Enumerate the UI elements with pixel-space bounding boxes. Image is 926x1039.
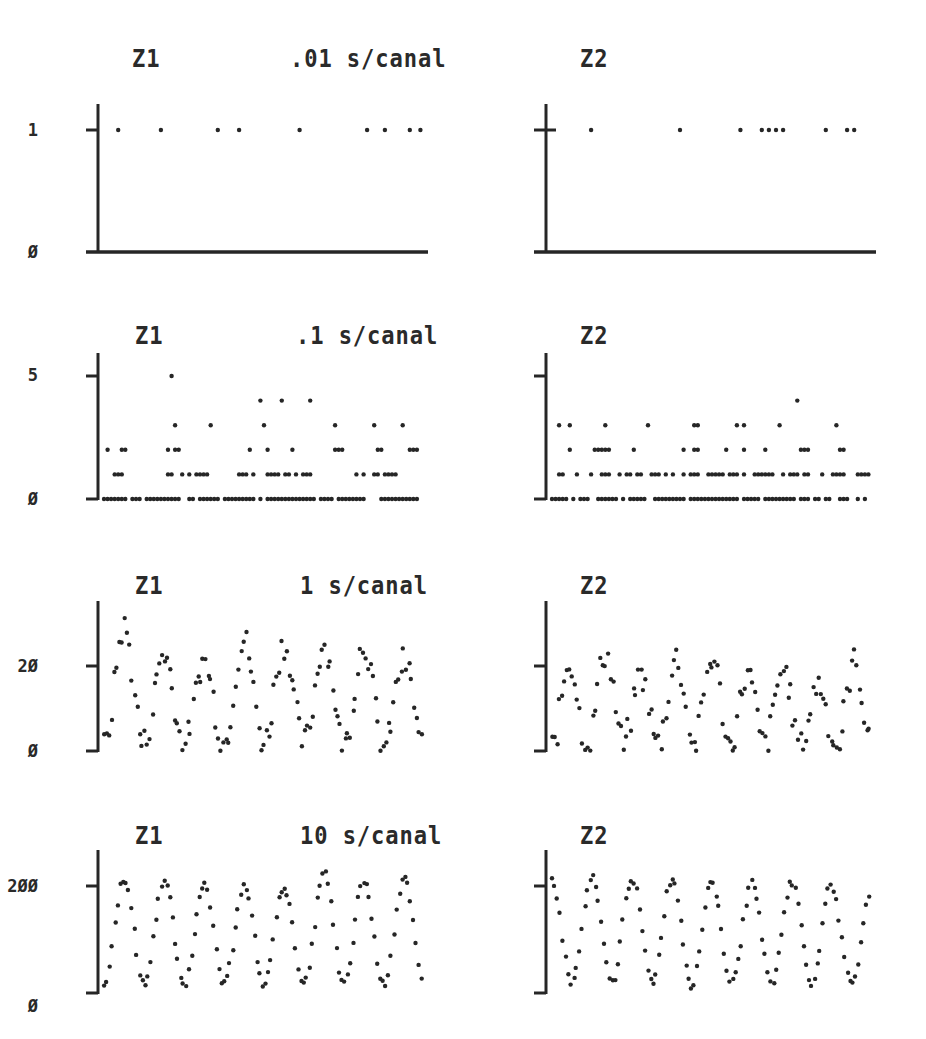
data-point [159, 128, 163, 132]
data-point [308, 725, 312, 729]
data-point [308, 472, 312, 476]
data-point [790, 723, 794, 727]
data-point [628, 472, 632, 476]
data-point [191, 497, 195, 501]
data-point [165, 656, 169, 660]
data-point [763, 448, 767, 452]
data-point [179, 976, 183, 980]
data-point [369, 917, 373, 921]
data-point [806, 497, 810, 501]
data-point [409, 677, 413, 681]
data-point [613, 978, 617, 982]
data-point [696, 714, 700, 718]
data-point [197, 674, 201, 678]
data-point [277, 895, 281, 899]
data-point [766, 749, 770, 753]
data-point [216, 497, 220, 501]
data-point [710, 881, 714, 885]
data-point [151, 712, 155, 716]
data-point [595, 899, 599, 903]
data-point [393, 472, 397, 476]
data-point [331, 688, 335, 692]
data-point [157, 661, 161, 665]
data-point [735, 472, 739, 476]
data-point [361, 651, 365, 655]
data-point [257, 971, 261, 975]
data-point [685, 963, 689, 967]
data-point [265, 728, 269, 732]
data-point [353, 917, 357, 921]
data-point [757, 910, 761, 914]
data-point [811, 685, 815, 689]
data-point [817, 497, 821, 501]
data-point [681, 942, 685, 946]
data-point [413, 941, 417, 945]
data-point [177, 497, 181, 501]
data-point [358, 884, 362, 888]
data-point [218, 749, 222, 753]
data-point [727, 979, 731, 983]
data-point [383, 984, 387, 988]
data-point [588, 748, 592, 752]
data-point [369, 662, 373, 666]
data-point [138, 973, 142, 977]
data-point [768, 714, 772, 718]
data-point [313, 683, 317, 687]
data-point [699, 700, 703, 704]
data-point [796, 902, 800, 906]
data-point [573, 682, 577, 686]
data-point [568, 423, 572, 427]
data-point [589, 472, 593, 476]
data-point [777, 423, 781, 427]
data-point [342, 979, 346, 983]
data-point [192, 697, 196, 701]
data-point [705, 670, 709, 674]
data-point [799, 731, 803, 735]
data-point [750, 878, 754, 882]
data-point [722, 952, 726, 956]
data-point [674, 648, 678, 652]
data-point [864, 903, 868, 907]
data-point [254, 705, 258, 709]
data-point [646, 423, 650, 427]
data-point [742, 472, 746, 476]
data-point [642, 497, 646, 501]
data-point [647, 712, 651, 716]
data-point [817, 676, 821, 680]
data-point [142, 729, 146, 733]
data-point [333, 708, 337, 712]
data-point [187, 472, 191, 476]
data-point [137, 497, 141, 501]
data-point [672, 658, 676, 662]
data-point [163, 659, 167, 663]
data-point [136, 705, 140, 709]
data-point [255, 960, 259, 964]
data-point [316, 895, 320, 899]
data-point [175, 957, 179, 961]
data-point [320, 648, 324, 652]
data-point [239, 893, 243, 897]
data-point [358, 647, 362, 651]
data-point [750, 680, 754, 684]
data-point [133, 693, 137, 697]
data-point [304, 975, 308, 979]
data-point [262, 423, 266, 427]
data-point [154, 918, 158, 922]
data-point [795, 398, 799, 402]
data-point [739, 944, 743, 948]
data-point [641, 688, 645, 692]
data-point [287, 472, 291, 476]
data-point [589, 128, 593, 132]
data-point [821, 697, 825, 701]
data-point [782, 669, 786, 673]
data-point [792, 497, 796, 501]
data-point [215, 947, 219, 951]
data-point [326, 665, 330, 669]
data-point [826, 734, 830, 738]
data-point [114, 920, 118, 924]
data-point [681, 472, 685, 476]
data-point [575, 697, 579, 701]
data-point [143, 983, 147, 987]
data-point [809, 984, 813, 988]
data-point [639, 667, 643, 671]
